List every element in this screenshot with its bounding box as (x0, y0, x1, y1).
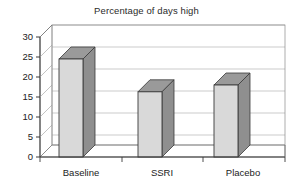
y-tick-label-25: 25 (22, 51, 33, 62)
y-tick-label-15: 15 (22, 91, 33, 102)
bar-group-ssri[interactable] (138, 80, 174, 157)
bar-group-baseline[interactable] (59, 28, 95, 157)
chart-container: Percentage of days high (0, 0, 293, 184)
x-axis-category-labels: Baseline SSRI Placebo (63, 167, 260, 178)
bar-baseline-front-face[interactable] (59, 59, 83, 157)
y-tick-label-30: 30 (22, 31, 33, 42)
y-tick-label-20: 20 (22, 71, 33, 82)
bar-ssri-side-face (162, 80, 174, 157)
y-tick-label-0: 0 (28, 151, 33, 162)
bar-placebo-front-face[interactable] (214, 85, 238, 157)
y-tick-label-10: 10 (22, 111, 33, 122)
bar-baseline-side-face (83, 47, 95, 157)
bar-ssri-front-face[interactable] (138, 92, 162, 157)
y-axis-tick-labels: 30 25 20 15 10 5 0 (22, 31, 33, 162)
bar-chart-plot: 30 25 20 15 10 5 0 (0, 0, 293, 184)
bar-group-placebo[interactable] (214, 73, 250, 157)
x-category-label-placebo: Placebo (226, 167, 260, 178)
x-category-label-ssri: SSRI (151, 167, 173, 178)
bar-placebo-side-face (238, 73, 250, 157)
x-category-label-baseline: Baseline (63, 167, 99, 178)
y-tick-label-5: 5 (28, 131, 33, 142)
